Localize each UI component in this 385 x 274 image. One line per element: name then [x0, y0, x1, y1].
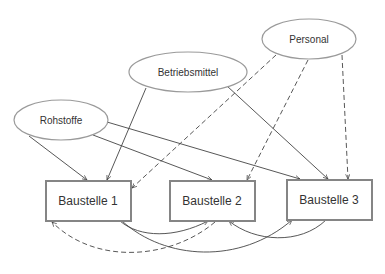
edge-baustelle1-baustelle2 [120, 221, 208, 234]
edge-baustelle1-baustelle3 [122, 220, 292, 252]
resource-node-personal: Personal [262, 19, 356, 59]
node-label: Baustelle 2 [182, 194, 242, 208]
node-label: Baustelle 1 [58, 194, 118, 208]
node-label: Betriebsmittel [158, 67, 219, 78]
resource-node-rohstoffe: Rohstoffe [14, 100, 108, 140]
site-node-baustelle2: Baustelle 2 [170, 181, 255, 221]
node-label: Personal [289, 34, 328, 45]
edge-rohstoffe-baustelle1 [29, 136, 87, 180]
site-node-baustelle3: Baustelle 3 [287, 180, 372, 220]
resource-flow-diagram: Rohstoffe Betriebsmittel Personal Bauste… [0, 0, 385, 274]
edge-personal-baustelle2 [247, 60, 308, 180]
site-node-baustelle1: Baustelle 1 [46, 181, 131, 221]
edge-betriebsmittel-baustelle1 [107, 88, 146, 180]
node-label: Baustelle 3 [299, 193, 359, 207]
edge-rohstoffe-baustelle3 [107, 122, 300, 179]
node-label: Rohstoffe [40, 115, 83, 126]
edge-baustelle2-baustelle1 [52, 222, 215, 252]
resource-node-betriebsmittel: Betriebsmittel [129, 52, 247, 92]
edge-baustelle3-baustelle2 [229, 220, 326, 238]
edge-rohstoffe-baustelle2 [93, 135, 212, 180]
edge-betriebsmittel-baustelle3 [227, 86, 328, 179]
edge-personal-baustelle3 [342, 55, 348, 179]
